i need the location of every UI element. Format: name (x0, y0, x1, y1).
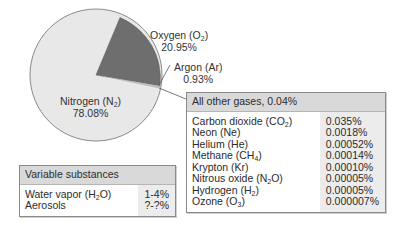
variable-substances-title: Variable substances (20, 166, 175, 185)
gas-value: 0.00014% (326, 150, 379, 162)
gas-value: ?-?% (144, 200, 169, 212)
other-gases-title: All other gases, 0.04% (187, 93, 385, 112)
variable-substances-table: Variable substances Water vapor (H2O)Aer… (19, 165, 176, 217)
gas-value: 0.00005% (326, 173, 379, 185)
label-argon: Argon (Ar) 0.93% (174, 61, 222, 85)
other-gases-table: All other gases, 0.04% Carbon dioxide (C… (186, 92, 386, 213)
gas-name: Ozone (O3) (192, 196, 315, 208)
label-oxygen: Oxygen (O2) 20.95% (150, 29, 208, 53)
gas-value: 0.0018% (326, 127, 379, 139)
gas-value: 0.000007% (326, 196, 379, 208)
gas-name: Aerosols (25, 200, 133, 212)
others-leader-line (159, 88, 186, 99)
label-nitrogen: Nitrogen (N2) 78.08% (60, 95, 121, 119)
